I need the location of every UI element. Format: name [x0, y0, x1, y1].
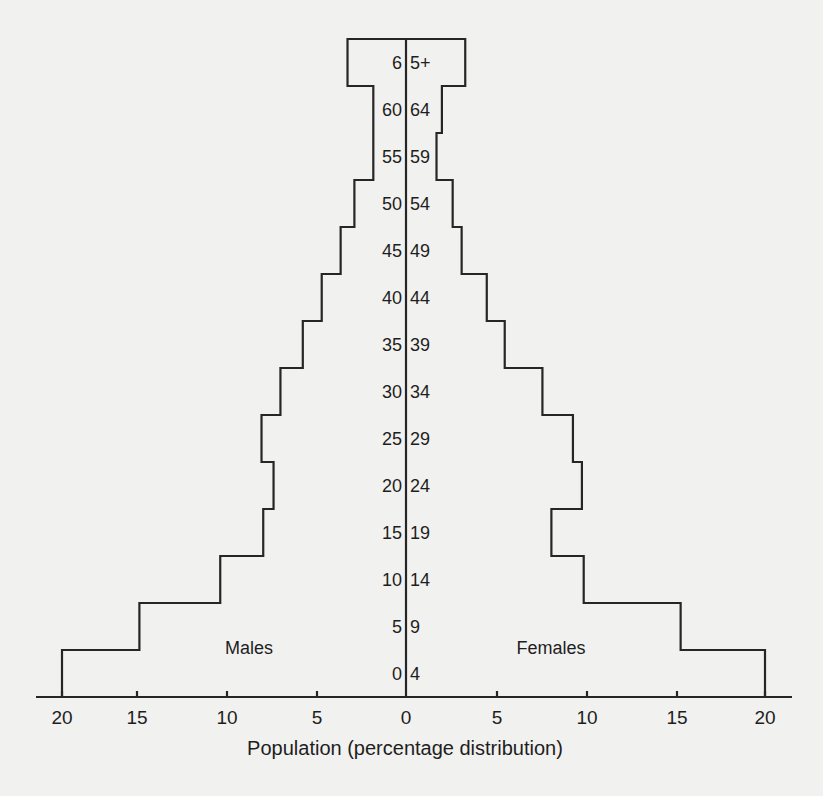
age-label-end: 19 [410, 523, 430, 543]
age-label-start: 6 [392, 53, 402, 73]
age-label-start: 50 [382, 194, 402, 214]
age-label-end: 5+ [410, 53, 431, 73]
age-label-end: 54 [410, 194, 430, 214]
x-tick-label: 20 [754, 707, 775, 728]
age-label-end: 34 [410, 382, 430, 402]
x-tick-label: 0 [401, 707, 412, 728]
age-label-start: 45 [382, 241, 402, 261]
age-label-start: 10 [382, 570, 402, 590]
age-label-end: 24 [410, 476, 430, 496]
x-tick-label: 15 [126, 707, 147, 728]
population-pyramid-chart: 0459101415192024252930343539404445495054… [0, 0, 823, 796]
age-label-end: 14 [410, 570, 430, 590]
age-label-start: 25 [382, 429, 402, 449]
age-label-end: 59 [410, 147, 430, 167]
axes [36, 39, 792, 698]
age-label-end: 44 [410, 288, 430, 308]
age-label-end: 9 [410, 617, 420, 637]
age-label-end: 4 [410, 664, 420, 684]
age-label-end: 64 [410, 100, 430, 120]
age-label-start: 30 [382, 382, 402, 402]
x-axis-title: Population (percentage distribution) [247, 737, 563, 759]
age-label-end: 39 [410, 335, 430, 355]
age-label-start: 5 [392, 617, 402, 637]
age-label-end: 49 [410, 241, 430, 261]
age-label-end: 29 [410, 429, 430, 449]
pyramid-outline [62, 39, 765, 697]
x-tick-label: 5 [312, 707, 323, 728]
age-label-start: 60 [382, 100, 402, 120]
age-label-start: 15 [382, 523, 402, 543]
age-label-start: 35 [382, 335, 402, 355]
age-label-start: 20 [382, 476, 402, 496]
x-tick-label: 10 [576, 707, 597, 728]
x-tick-label: 5 [492, 707, 503, 728]
females-label: Females [516, 638, 585, 658]
females-outline [406, 39, 765, 697]
x-tick-label: 20 [51, 707, 72, 728]
x-tick-label: 15 [666, 707, 687, 728]
males-label: Males [225, 638, 273, 658]
age-label-start: 40 [382, 288, 402, 308]
age-label-start: 0 [392, 664, 402, 684]
age-label-start: 55 [382, 147, 402, 167]
males-outline [62, 39, 406, 697]
x-tick-label: 10 [216, 707, 237, 728]
